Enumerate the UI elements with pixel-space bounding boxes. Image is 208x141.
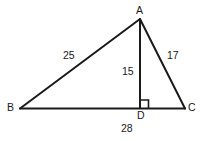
length-label-ac: 17: [167, 50, 179, 61]
length-label-ab: 25: [63, 50, 75, 61]
segment-ac: [140, 19, 185, 109]
vertex-label-a: A: [136, 5, 143, 16]
length-label-ad: 15: [122, 66, 134, 77]
length-label-bc: 28: [121, 123, 133, 134]
vertex-label-d: D: [137, 110, 145, 121]
segment-ab: [20, 19, 140, 109]
triangle-diagram-canvas: [0, 0, 208, 141]
vertex-label-c: C: [188, 102, 196, 113]
vertex-label-b: B: [7, 102, 14, 113]
right-angle-icon: [140, 100, 149, 109]
geometry-figure: A B C D 25 17 15 28: [0, 0, 208, 141]
